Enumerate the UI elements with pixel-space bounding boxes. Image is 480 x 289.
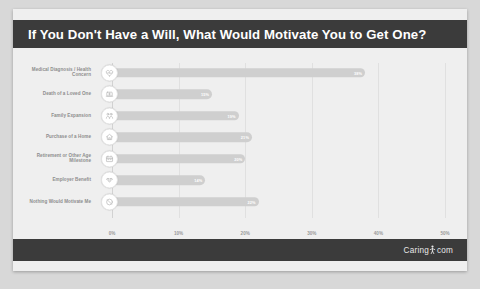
bar-row: Employer Benefit14% [13, 171, 467, 190]
chart-header: If You Don't Have a Will, What Would Mot… [13, 20, 467, 48]
bar-value-label: 38% [354, 70, 362, 75]
bar-row: Purchase of a Home21% [13, 128, 467, 147]
brand-name-right: com [437, 246, 453, 255]
bar [112, 175, 205, 185]
bar-row: Retirement or Other Age Milestone20% [13, 149, 467, 168]
bar-value-label: 21% [241, 135, 249, 140]
house-icon [101, 129, 118, 146]
bar-value-label: 14% [194, 178, 202, 183]
category-label-wrap: Family Expansion [19, 106, 91, 125]
bar [112, 68, 365, 78]
category-label: Employer Benefit [19, 177, 91, 183]
bar [112, 111, 239, 121]
bar [112, 154, 245, 164]
heart-health-icon [101, 64, 118, 81]
x-tick-label: 50% [440, 231, 449, 236]
brand-name-left: Caring [404, 246, 429, 255]
category-label: Family Expansion [19, 113, 91, 119]
category-label: Death of a Loved One [19, 91, 91, 97]
bar-row: Death of a Loved One15% [13, 85, 467, 104]
bar [112, 89, 212, 99]
family-icon [101, 107, 118, 124]
category-label: Retirement or Other Age Milestone [19, 153, 91, 164]
bar-row: Medical Diagnosis / Health Concern38% [13, 63, 467, 82]
bar-value-label: 15% [201, 92, 209, 97]
bar-value-label: 20% [234, 156, 242, 161]
chart-plot-area: Medical Diagnosis / Health Concern38%Dea… [13, 55, 467, 231]
category-label-wrap: Death of a Loved One [19, 85, 91, 104]
bar [112, 197, 259, 207]
x-tick-label: 0% [109, 231, 116, 236]
category-label: Nothing Would Motivate Me [19, 199, 91, 205]
person-icon [429, 245, 436, 256]
category-label: Medical Diagnosis / Health Concern [19, 67, 91, 78]
bar-row: Nothing Would Motivate Me22% [13, 192, 467, 211]
handshake-icon [101, 172, 118, 189]
category-label-wrap: Medical Diagnosis / Health Concern [19, 63, 91, 82]
category-label-wrap: Retirement or Other Age Milestone [19, 149, 91, 168]
chart-card: If You Don't Have a Will, What Would Mot… [13, 9, 467, 271]
tombstone-icon [101, 86, 118, 103]
bar-row: Family Expansion19% [13, 106, 467, 125]
category-label: Purchase of a Home [19, 134, 91, 140]
bar-value-label: 19% [228, 113, 236, 118]
bar [112, 132, 252, 142]
blocked-icon [101, 193, 118, 210]
x-tick-label: 20% [241, 231, 250, 236]
bar-value-label: 22% [248, 199, 256, 204]
chart-footer: Caring com [13, 239, 467, 261]
x-tick-label: 30% [307, 231, 316, 236]
caring-com-logo: Caring com [404, 245, 467, 256]
category-label-wrap: Nothing Would Motivate Me [19, 192, 91, 211]
page-title: If You Don't Have a Will, What Would Mot… [13, 27, 426, 42]
calendar-icon [101, 150, 118, 167]
category-label-wrap: Purchase of a Home [19, 128, 91, 147]
category-label-wrap: Employer Benefit [19, 171, 91, 190]
x-tick-label: 40% [374, 231, 383, 236]
x-tick-label: 10% [174, 231, 183, 236]
